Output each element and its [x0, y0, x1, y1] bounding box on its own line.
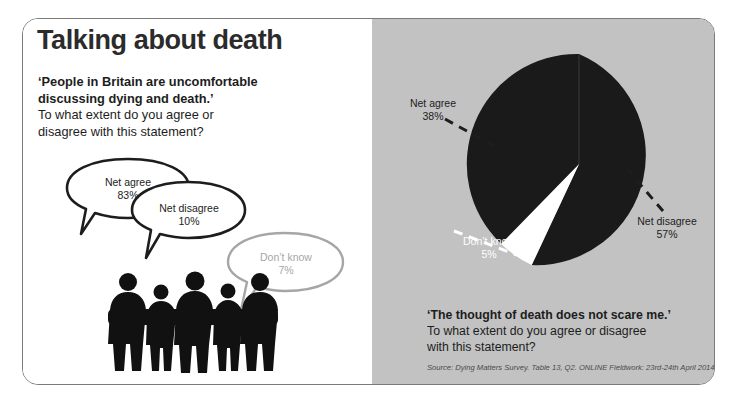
pie-label-net-agree-value: 38% — [394, 110, 472, 123]
people-silhouettes — [108, 272, 278, 374]
left-panel: Talking about death ‘People in Britain a… — [23, 19, 372, 384]
bubble-label-net-disagree-value: 10% — [138, 215, 240, 228]
pie-label-net-disagree: Net disagree 57% — [624, 215, 710, 240]
right-statement-quote-line1: ‘The thought of death does not scare me.… — [427, 307, 712, 323]
right-panel: Net agree 38% Net disagree 57% Don’t kno… — [372, 19, 715, 384]
pie-label-net-disagree-text: Net disagree — [624, 215, 710, 228]
left-statement-follow-line1: To what extent do you agree or — [38, 107, 348, 124]
bubble-label-dont-know-value: 7% — [236, 264, 336, 277]
right-statement-follow-line2: with this statement? — [427, 339, 712, 355]
pie-label-dont-know: Don’t know 5% — [444, 235, 534, 260]
bubble-label-net-disagree-text: Net disagree — [138, 202, 240, 215]
bubble-label-net-agree-value: 83% — [83, 189, 173, 202]
left-statement-quote-line2: discussing dying and death.’ — [38, 91, 348, 108]
page-title: Talking about death — [37, 25, 282, 56]
bubble-label-net-disagree: Net disagree 10% — [138, 202, 240, 227]
right-statement-follow-line1: To what extent do you agree or disagree — [427, 323, 712, 339]
bubble-label-net-agree-text: Net agree — [83, 176, 173, 189]
pie-label-dont-know-value: 5% — [444, 248, 534, 261]
bubble-label-dont-know-text: Don’t know — [236, 251, 336, 264]
bubble-label-net-agree: Net agree 83% — [83, 176, 173, 201]
source-note: Source: Dying Matters Survey. Table 13, … — [427, 363, 715, 372]
left-statement-follow-line2: disagree with this statement? — [38, 124, 348, 141]
left-statement: ‘People in Britain are uncomfortable dis… — [38, 74, 348, 140]
pie-label-net-disagree-value: 57% — [624, 228, 710, 241]
pie-label-net-agree-text: Net agree — [394, 97, 472, 110]
bubble-label-dont-know: Don’t know 7% — [236, 251, 336, 276]
left-statement-quote-line1: ‘People in Britain are uncomfortable — [38, 74, 348, 91]
infographic-card: Talking about death ‘People in Britain a… — [22, 18, 715, 385]
pie-label-net-agree: Net agree 38% — [394, 97, 472, 122]
right-statement: ‘The thought of death does not scare me.… — [427, 307, 712, 355]
pie-chart — [372, 19, 715, 319]
pie-label-dont-know-text: Don’t know — [444, 235, 534, 248]
